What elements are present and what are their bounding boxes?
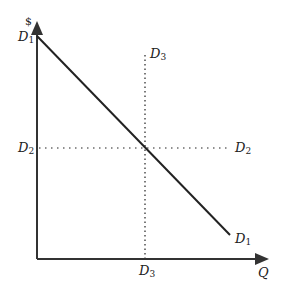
label-d1-end: D1 <box>235 232 251 247</box>
label-d3-bottom: D3 <box>139 264 155 279</box>
d1-line <box>37 36 230 235</box>
label-d1-top: D1 <box>18 30 34 45</box>
label-d2-right: D2 <box>235 141 251 156</box>
x-axis-label: Q <box>258 266 269 279</box>
y-axis-label: $ <box>25 16 32 27</box>
label-d2-left: D2 <box>18 141 34 156</box>
label-d3-top: D3 <box>150 47 166 62</box>
